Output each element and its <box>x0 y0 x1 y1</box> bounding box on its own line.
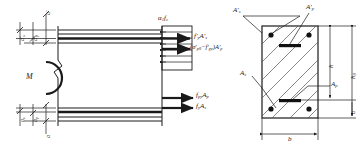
moment-arc-icon <box>46 62 62 94</box>
dim-label-a-s: as <box>19 117 26 122</box>
dim-label-cover-a: a <box>350 111 356 114</box>
cross-section <box>262 26 318 118</box>
force-arrows-tension <box>162 98 193 108</box>
moment-label: M <box>26 73 33 81</box>
dim-label-a-p: ap <box>32 117 39 122</box>
dim-label-a-prime: a′ <box>45 11 51 15</box>
dim-label-h0: h0 <box>350 73 358 79</box>
dim-label-a-prime-p: a′p <box>32 35 39 41</box>
dim-label-a: a <box>45 135 51 138</box>
beam-elevation <box>54 26 162 126</box>
force-label-tension-steel: fyAs <box>196 103 206 111</box>
force-label-tension-tendon: fpyAp <box>196 92 209 100</box>
label-area-tension-tendon: Ap <box>331 81 338 89</box>
stress-label-alpha1-fc: α1fc <box>158 15 168 23</box>
label-area-tension-steel: As <box>240 70 246 78</box>
figure-canvas: a′s a′p a′ as ap a M α1fc f′yA′s (σ′p0−f… <box>0 0 364 151</box>
force-label-compression-tendon: (σ′p0−f′py)A′p <box>190 44 222 51</box>
dim-label-h: h <box>328 65 335 69</box>
dim-label-a-prime-s: a′s <box>19 35 26 41</box>
dim-label-b: b <box>288 136 292 143</box>
label-area-compression-steel: A′s <box>233 7 241 15</box>
figure-vector <box>0 0 364 151</box>
label-area-compression-tendon: A′p <box>306 4 314 12</box>
force-label-compression-steel: f′yA′s <box>194 33 207 41</box>
